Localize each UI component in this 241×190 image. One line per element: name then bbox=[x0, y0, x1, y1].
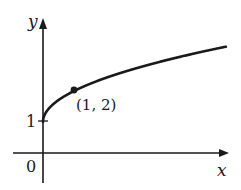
point-label: (1, 2) bbox=[76, 96, 116, 114]
origin-label: 0 bbox=[26, 157, 36, 176]
point-marker bbox=[71, 87, 78, 94]
y-axis-label: y bbox=[27, 11, 38, 31]
y-axis-arrow-icon bbox=[39, 18, 47, 29]
chart-canvas: y x 1 0 (1, 2) bbox=[0, 0, 241, 190]
y-tick-label-1: 1 bbox=[26, 112, 36, 131]
x-axis-label: x bbox=[217, 160, 227, 180]
x-axis-arrow-icon bbox=[219, 149, 229, 157]
function-curve bbox=[43, 47, 226, 122]
